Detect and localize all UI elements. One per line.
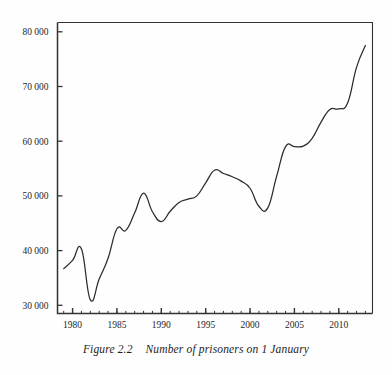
y-axis-tick-label: 50 000: [22, 191, 48, 201]
y-axis-tick-label: 40 000: [22, 246, 48, 256]
x-axis-tick-label: 2005: [285, 320, 304, 330]
x-axis-tick-label: 2000: [241, 320, 260, 330]
x-axis-tick-label: 1980: [63, 320, 82, 330]
x-axis-tick-label: 2010: [329, 320, 348, 330]
figure-caption: Figure 2.2Number of prisoners on 1 Janua…: [0, 343, 392, 355]
figure-container: 80 00070 00060 00050 00040 00030 000 198…: [0, 0, 392, 375]
x-axis-tick-label: 1990: [152, 320, 171, 330]
y-axis-tick-label: 80 000: [22, 27, 48, 37]
y-axis-tick-label: 30 000: [22, 301, 48, 311]
caption-figure-number: Figure 2.2: [83, 343, 133, 355]
y-axis-tick-label: 60 000: [22, 137, 48, 147]
x-axis-tick-label: 1985: [107, 320, 126, 330]
prisoners-line-chart: 80 00070 00060 00050 00040 00030 000 198…: [0, 0, 392, 340]
chart-background: [0, 0, 392, 340]
x-axis-tick-label: 1995: [196, 320, 215, 330]
y-axis-tick-label: 70 000: [22, 82, 48, 92]
caption-text: Number of prisoners on 1 January: [146, 343, 310, 355]
